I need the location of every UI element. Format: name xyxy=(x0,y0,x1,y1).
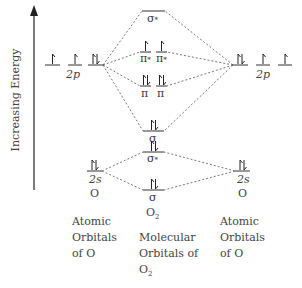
electron-up-icon xyxy=(93,54,96,64)
svg-text:π*: π* xyxy=(156,52,167,65)
electron-up-icon xyxy=(160,75,163,85)
caption-right-atomic-orbitals: Atomic Orbitals of O xyxy=(220,214,265,262)
correlation-lines-2s xyxy=(102,152,235,190)
electron-down-icon xyxy=(156,179,159,189)
caption-left-atomic-orbitals: Atomic Orbitals of O xyxy=(72,214,117,262)
left-2p-label: 2p xyxy=(65,68,80,81)
electron-up-icon xyxy=(144,75,147,85)
svg-text:π*: π* xyxy=(140,52,151,65)
electron-up-icon xyxy=(53,54,56,64)
molecule-label: O2 xyxy=(146,206,160,221)
arrow-up-icon xyxy=(30,5,38,16)
svg-text:π: π xyxy=(141,87,148,100)
mo-sigma-star-2p: σ* xyxy=(142,11,165,25)
energy-axis: Increasing Energy xyxy=(9,5,38,190)
electron-up-icon xyxy=(146,41,149,51)
electron-down-icon xyxy=(164,75,167,85)
left-2p-orbitals: 2p xyxy=(45,54,103,81)
right-2s-label: 2s xyxy=(236,173,250,186)
correlation-lines-2p xyxy=(103,11,233,131)
right-atom-element: O xyxy=(238,187,247,200)
svg-text:σ*: σ* xyxy=(147,152,159,165)
electron-down-icon xyxy=(242,54,245,64)
electron-up-icon xyxy=(152,179,155,189)
electron-up-icon xyxy=(263,54,266,64)
electron-up-icon xyxy=(92,160,95,170)
left-2s-orbital: 2s O xyxy=(87,160,102,200)
left-atom-element: O xyxy=(90,187,99,200)
mo-sigma-2p: σ xyxy=(143,120,164,145)
electron-up-icon xyxy=(162,41,165,51)
right-2p-label: 2p xyxy=(255,68,270,81)
electron-up-icon xyxy=(152,120,155,130)
electron-down-icon xyxy=(148,75,151,85)
electron-up-icon xyxy=(75,54,78,64)
right-2s-orbital: 2s O xyxy=(235,160,250,200)
left-2s-label: 2s xyxy=(88,173,102,186)
svg-text:π: π xyxy=(157,87,164,100)
electron-up-icon xyxy=(238,54,241,64)
mo-sigma-2s: σ O2 xyxy=(143,179,164,221)
right-2p-orbitals: 2p xyxy=(233,54,292,81)
electron-down-icon xyxy=(156,120,159,130)
caption-molecular-orbitals: Molecular Orbitals of O2 xyxy=(139,230,198,279)
electron-up-icon xyxy=(285,54,288,64)
electron-down-icon xyxy=(244,160,247,170)
electron-down-icon xyxy=(96,160,99,170)
svg-text:σ: σ xyxy=(149,191,157,204)
electron-down-icon xyxy=(97,54,100,64)
energy-axis-label: Increasing Energy xyxy=(9,48,22,152)
electron-up-icon xyxy=(240,160,243,170)
mo-pi-star-2p: π* π* xyxy=(140,41,167,65)
mo-pi-2p: π π xyxy=(140,75,167,100)
electron-down-icon xyxy=(156,141,159,151)
svg-text:σ*: σ* xyxy=(147,12,159,25)
